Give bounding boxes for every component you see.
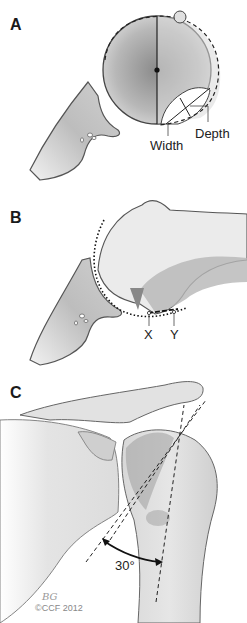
panel-c-label: C: [10, 384, 22, 401]
neck-shadow: [146, 510, 170, 526]
y-label: Y: [170, 327, 179, 342]
point-y: [172, 310, 175, 313]
panel-b: B X Y: [10, 201, 247, 365]
center-point: [154, 67, 159, 72]
glenoid-bone: [30, 82, 120, 180]
panel-a-label: A: [10, 16, 22, 33]
depth-label: Depth: [195, 126, 230, 141]
acromion: [20, 382, 203, 423]
copyright-text: ©CCF 2012: [35, 603, 83, 613]
width-label: Width: [150, 138, 183, 153]
panel-b-label: B: [10, 209, 22, 226]
x-label: X: [144, 327, 153, 342]
point-x: [147, 311, 150, 314]
bone-foramen: [88, 133, 93, 137]
tuberosity: [174, 11, 186, 23]
bone-foramen: [75, 321, 78, 325]
medical-figure: A Width Depth B: [0, 0, 247, 623]
bone-foramen: [84, 320, 88, 323]
bone-foramen: [92, 136, 96, 139]
angle-label: 30°: [115, 558, 135, 573]
bone-foramen: [81, 138, 84, 142]
bone-foramen: [80, 314, 85, 318]
panel-a: A Width Depth: [10, 11, 230, 180]
panel-c: C 30° BG ©CCF 2012: [0, 382, 217, 623]
artist-signature: BG: [41, 591, 58, 602]
